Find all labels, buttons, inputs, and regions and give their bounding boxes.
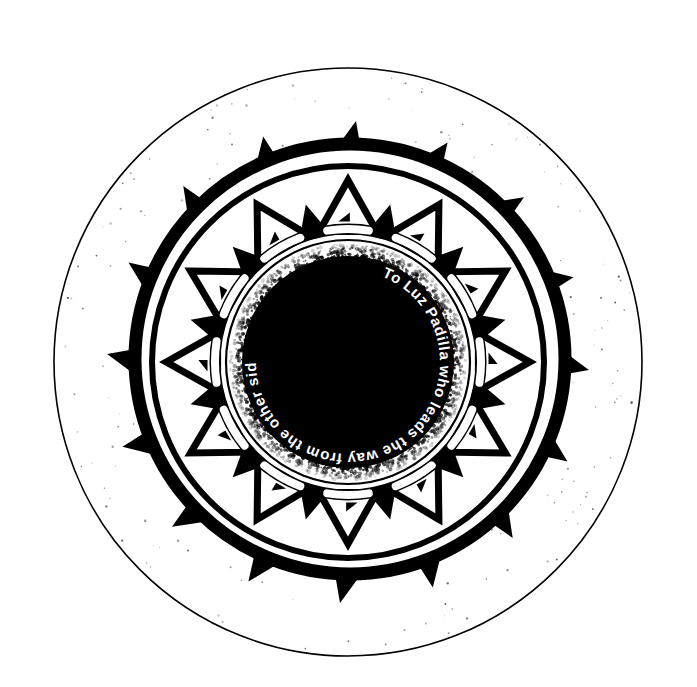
- mandala-illustration: Circular Mandala Sun Emblem Black and wh…: [0, 0, 697, 687]
- artwork-canvas: Circular Mandala Sun Emblem Black and wh…: [0, 0, 697, 687]
